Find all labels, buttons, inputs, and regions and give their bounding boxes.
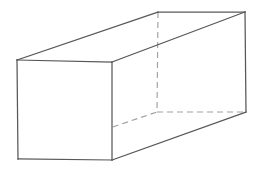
- prism-face-front: [17, 60, 112, 160]
- figure-container: [0, 0, 261, 170]
- rectangular-prism-diagram: [0, 0, 261, 170]
